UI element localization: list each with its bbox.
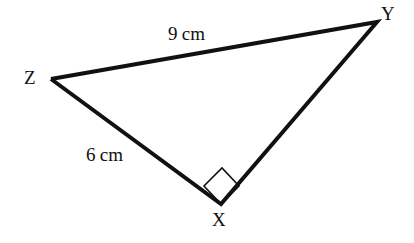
vertex-label-x: X bbox=[212, 210, 226, 229]
diagram-background bbox=[0, 0, 414, 243]
side-length-label-zx: 6 cm bbox=[86, 145, 123, 164]
side-length-label-zy: 9 cm bbox=[168, 24, 205, 43]
vertex-label-y: Y bbox=[381, 4, 395, 23]
geometry-diagram: Y Z X 9 cm 6 cm bbox=[0, 0, 414, 243]
triangle-canvas bbox=[0, 0, 414, 243]
vertex-label-z: Z bbox=[24, 68, 36, 87]
